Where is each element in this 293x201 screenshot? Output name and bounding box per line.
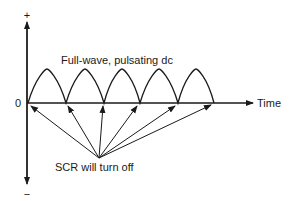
y-axis: + − <box>24 9 30 200</box>
scr-waveform-diagram: + − 0 Time Full-wave, pulsating dc SCR w… <box>0 0 293 201</box>
turn-off-arrows <box>31 105 211 158</box>
origin-label: 0 <box>15 97 21 109</box>
waveform-label: Full-wave, pulsating dc <box>61 54 173 66</box>
full-wave-waveform <box>28 69 214 103</box>
x-axis: 0 Time <box>15 97 281 109</box>
scr-turn-off-label: SCR will turn off <box>55 161 135 173</box>
x-axis-label: Time <box>257 97 281 109</box>
y-axis-plus-label: + <box>24 9 30 21</box>
y-axis-minus-label: − <box>24 188 30 200</box>
